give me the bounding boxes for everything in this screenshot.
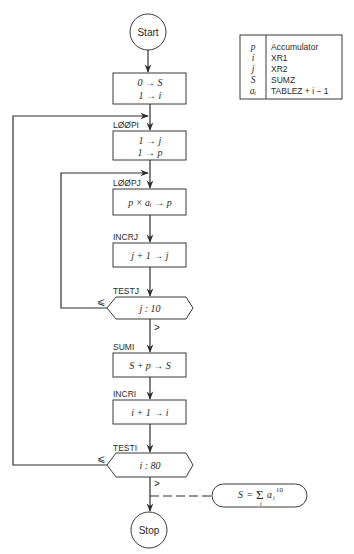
decision-testi: i : 80	[107, 453, 193, 477]
annotation-term: a	[267, 489, 272, 500]
annotation-lhs: S	[238, 489, 243, 500]
process-box-sumi: S + p → S	[113, 353, 186, 377]
incrj-line-1: j + 1 → j	[129, 250, 169, 261]
legend-meaning: Accumulator	[271, 42, 318, 52]
flowchart-canvas: Start 0 → S 1 → i LØØPI 1 → j 1 → p LØØP…	[0, 0, 354, 554]
legend-meaning: TABLEZ + i − 1	[271, 86, 329, 96]
process-box-init: 0 → S 1 → i	[113, 73, 186, 104]
testj-branch-le: ⩽	[97, 296, 105, 307]
process-box-incrj: j + 1 → j	[113, 243, 186, 267]
loopi-line-1: 1 → j	[139, 135, 162, 146]
testi-condition: i : 80	[139, 460, 160, 471]
label-incri: INCRI	[113, 389, 136, 399]
label-loopi: LØØPI	[113, 120, 139, 130]
legend-symbol: p	[250, 42, 256, 52]
loopi-line-2: 1 → p	[138, 147, 163, 158]
legend-meaning: XR1	[271, 53, 288, 63]
legend-meaning: SUMZ	[271, 75, 295, 85]
stop-terminal: Stop	[131, 512, 167, 548]
start-terminal: Start	[130, 14, 166, 50]
process-box-loopi: 1 → j 1 → p	[113, 131, 186, 160]
testi-branch-le: ⩽	[97, 453, 105, 464]
init-line-2: 1 → i	[139, 90, 162, 101]
legend-table: p Accumulator i XR1 j XR2 S SUMZ aᵢ TABL…	[240, 35, 342, 99]
annotation-eq: =	[247, 489, 253, 500]
start-label: Start	[137, 27, 158, 38]
incri-line-1: i + 1 → i	[131, 407, 169, 418]
testi-branch-gt: >	[154, 478, 160, 489]
label-loopj: LØØPJ	[113, 178, 141, 188]
legend-symbol: S	[251, 75, 256, 85]
label-incrj: INCRJ	[113, 232, 138, 242]
init-line-1: 0 → S	[138, 77, 163, 88]
label-sumi: SUMI	[113, 342, 134, 352]
testj-condition: j : 10	[137, 303, 160, 314]
legend-meaning: XR2	[271, 64, 288, 74]
process-box-loopj: p × aᵢ → p	[113, 189, 186, 215]
label-testj: TESTJ	[113, 286, 139, 296]
loopj-line-1: p × aᵢ → p	[127, 197, 171, 208]
annotation-result: S = Σ i a i 10	[212, 484, 307, 507]
testj-branch-gt: >	[154, 322, 160, 333]
label-testi: TESTI	[113, 443, 137, 453]
annotation-term-sup: 10	[276, 486, 284, 494]
sumi-line-1: S + p → S	[129, 360, 171, 371]
legend-symbol: aᵢ	[250, 86, 257, 96]
legend-symbol: i	[252, 53, 255, 63]
decision-testj: j : 10	[107, 297, 193, 319]
process-box-incri: i + 1 → i	[113, 400, 186, 424]
stop-label: Stop	[139, 525, 160, 536]
